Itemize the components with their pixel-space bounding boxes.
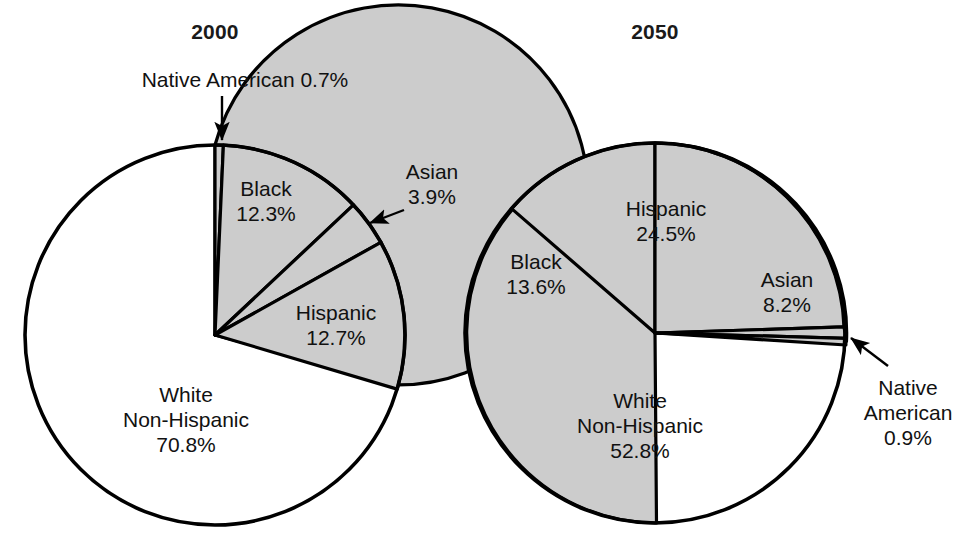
label-2050-hispanic: Hispanic 24.5%	[626, 196, 707, 246]
label-2000-asian-name: Asian	[406, 159, 459, 184]
label-2050-hispanic-name: Hispanic	[626, 196, 707, 221]
label-2050-asian-value: 8.2%	[761, 292, 814, 317]
figure-canvas: 2000 2050 Native American 0.7% Black 12.…	[0, 0, 976, 557]
chart-title-2050: 2050	[631, 20, 679, 44]
label-2000-hispanic: Hispanic 12.7%	[296, 300, 377, 350]
label-2050-native-american-value: 0.9%	[864, 425, 953, 450]
label-2000-white-line1: White	[123, 382, 249, 407]
label-2050-native-american-line1: Native	[864, 375, 953, 400]
label-2050-native-american: Native American 0.9%	[864, 375, 953, 450]
leader-arrow-2050-native-american	[851, 338, 888, 366]
label-2050-asian: Asian 8.2%	[761, 267, 814, 317]
label-2050-hispanic-value: 24.5%	[626, 221, 707, 246]
label-2000-asian-value: 3.9%	[406, 184, 459, 209]
label-2000-hispanic-name: Hispanic	[296, 300, 377, 325]
label-2050-white-non-hispanic: White Non-Hispanic 52.8%	[577, 388, 703, 463]
label-2000-native-american-text: Native American 0.7%	[142, 68, 349, 91]
label-2000-asian: Asian 3.9%	[406, 159, 459, 209]
chart-title-2000: 2000	[191, 20, 239, 44]
label-2050-white-line2: Non-Hispanic	[577, 413, 703, 438]
label-2000-black-name: Black	[236, 176, 296, 201]
label-2000-native-american: Native American 0.7%	[142, 67, 349, 92]
label-2050-black-value: 13.6%	[506, 274, 566, 299]
label-2050-white-value: 52.8%	[577, 438, 703, 463]
label-2000-black: Black 12.3%	[236, 176, 296, 226]
label-2000-white-line2: Non-Hispanic	[123, 407, 249, 432]
label-2000-white-non-hispanic: White Non-Hispanic 70.8%	[123, 382, 249, 457]
label-2050-black: Black 13.6%	[506, 249, 566, 299]
label-2000-white-value: 70.8%	[123, 432, 249, 457]
label-2050-white-line1: White	[577, 388, 703, 413]
label-2000-hispanic-value: 12.7%	[296, 325, 377, 350]
label-2050-black-name: Black	[506, 249, 566, 274]
label-2050-native-american-line2: American	[864, 400, 953, 425]
label-2000-black-value: 12.3%	[236, 201, 296, 226]
label-2050-asian-name: Asian	[761, 267, 814, 292]
